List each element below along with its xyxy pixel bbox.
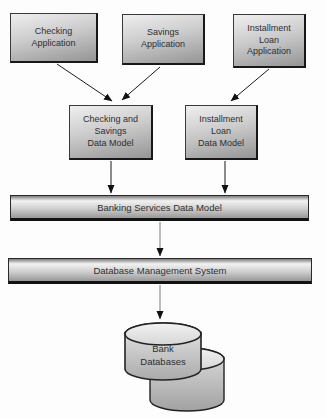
arrow-checking-to-cs-model xyxy=(57,64,112,101)
diagram-canvas: Checking Application Savings Application… xyxy=(0,0,326,418)
arrow-savings-to-cs-model xyxy=(122,67,160,100)
box-checking-application: Checking Application xyxy=(10,13,98,63)
box-installment-loan-application: Installment Loan Application xyxy=(233,14,306,68)
bar-banking-services-data-model: Banking Services Data Model xyxy=(10,195,309,221)
box-installment-loan-data-model: Installment Loan Data Model xyxy=(185,105,258,160)
arrow-installment-to-il-model xyxy=(231,69,269,101)
bar-database-management-system: Database Management System xyxy=(8,258,312,284)
database-label: Bank Databases xyxy=(125,343,201,369)
box-savings-application: Savings Application xyxy=(122,14,205,65)
box-checking-savings-data-model: Checking and Savings Data Model xyxy=(69,105,153,160)
